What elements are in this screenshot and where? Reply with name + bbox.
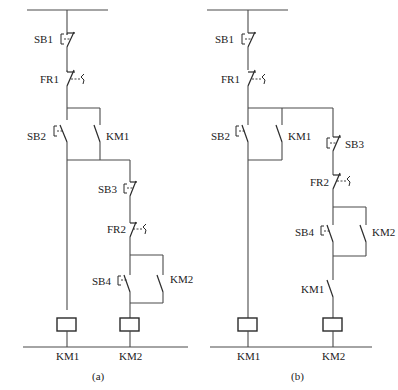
diagram-a: SB1 FR1 SB2 KM1 <box>23 10 193 383</box>
fr1-thermal-relay-contact-b <box>248 70 265 125</box>
label-sb4-b: SB4 <box>295 226 314 238</box>
coil-km2-a <box>120 318 139 331</box>
km2-hold-contact-a <box>157 275 163 303</box>
km1-hold-contact-a <box>94 125 100 160</box>
label-sb3-a: SB3 <box>98 183 117 195</box>
label-km1-interlock-b: KM1 <box>301 283 324 295</box>
fr2-thermal-relay-contact-b <box>333 173 350 225</box>
control-circuit-figure: SB1 FR1 SB2 KM1 <box>0 0 398 390</box>
fr1-thermal-relay-contact-a <box>67 70 84 120</box>
label-coil-km2-b: KM2 <box>322 350 345 362</box>
label-sb1-a: SB1 <box>34 33 53 45</box>
coil-km2-b <box>323 318 342 331</box>
label-km1-contact-b: KM1 <box>288 130 311 142</box>
fr2-thermal-relay-contact-a <box>130 222 146 275</box>
km1-hold-contact-b <box>276 125 282 160</box>
label-coil-km1-a: KM1 <box>56 350 79 362</box>
sb4-start-button-no-b <box>321 225 333 280</box>
label-sb4-a: SB4 <box>92 275 111 287</box>
sb2-start-button-no-b <box>236 125 248 318</box>
coil-km1-b <box>238 318 257 331</box>
caption-b: (b) <box>291 370 304 383</box>
label-coil-km1-b: KM1 <box>237 350 260 362</box>
label-sb3-b: SB3 <box>345 138 364 150</box>
label-fr1-b: FR1 <box>221 73 240 85</box>
sb4-start-button-no-a <box>118 275 130 318</box>
sb1-stop-button-nc-a <box>61 32 75 70</box>
sb3-stop-button-nc-b <box>327 135 341 175</box>
label-coil-km2-a: KM2 <box>119 350 142 362</box>
label-fr2-b: FR2 <box>310 176 329 188</box>
km2-hold-contact-b <box>360 225 366 256</box>
label-sb2-a: SB2 <box>27 130 46 142</box>
label-fr2-a: FR2 <box>107 223 126 235</box>
caption-a: (a) <box>92 370 105 383</box>
label-fr1-a: FR1 <box>40 73 59 85</box>
km1-interlock-contact-b <box>327 280 333 318</box>
label-km1-contact-a: KM1 <box>106 130 129 142</box>
label-km2-contact-a: KM2 <box>170 273 193 285</box>
sb3-stop-button-nc-a <box>124 181 137 223</box>
label-km2-contact-b: KM2 <box>372 226 395 238</box>
sb2-start-button-no-a <box>54 125 67 310</box>
label-sb2-b: SB2 <box>211 130 230 142</box>
coil-km1-a <box>57 318 76 331</box>
label-sb1-b: SB1 <box>215 33 234 45</box>
diagram-b: SB1 FR1 SB2 KM1 <box>207 10 395 383</box>
sb1-stop-button-nc-b <box>242 32 256 70</box>
